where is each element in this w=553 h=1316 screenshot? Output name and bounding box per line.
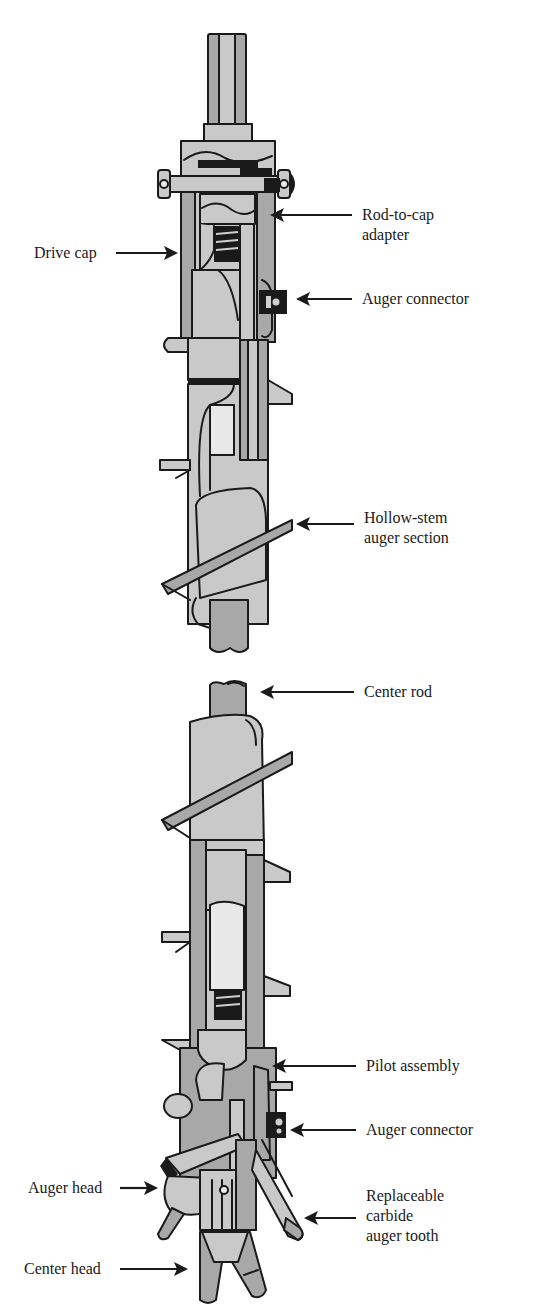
label-auger-connector-top: Auger connector bbox=[362, 289, 469, 309]
drive-shaft bbox=[204, 34, 252, 142]
label-center-rod: Center rod bbox=[364, 682, 432, 702]
lower-assembly bbox=[158, 681, 303, 1303]
auger-connector-upper bbox=[259, 290, 287, 314]
label-auger-connector-bottom: Auger connector bbox=[366, 1120, 473, 1140]
label-drive-cap: Drive cap bbox=[34, 243, 97, 263]
label-replaceable-carbide-auger-tooth: Replaceable carbide auger tooth bbox=[366, 1186, 444, 1246]
pilot-spring bbox=[214, 990, 242, 1020]
label-auger-head: Auger head bbox=[28, 1178, 102, 1198]
auger-connector-lower bbox=[266, 1112, 286, 1138]
upper-assembly bbox=[158, 34, 295, 652]
auger-head bbox=[158, 1134, 256, 1239]
label-rod-to-cap-adapter: Rod-to-cap adapter bbox=[362, 205, 434, 245]
hollow-stem-auger-upper bbox=[160, 338, 292, 652]
auger-diagram bbox=[0, 0, 553, 1316]
center-head bbox=[200, 1232, 266, 1303]
label-center-head: Center head bbox=[24, 1259, 101, 1279]
label-hollow-stem-auger-section: Hollow-stem auger section bbox=[364, 508, 449, 548]
label-pilot-assembly: Pilot assembly bbox=[366, 1056, 460, 1076]
hollow-stem-auger-lower bbox=[162, 715, 292, 1055]
carbide-tooth bbox=[252, 1140, 303, 1240]
spring bbox=[214, 226, 240, 262]
